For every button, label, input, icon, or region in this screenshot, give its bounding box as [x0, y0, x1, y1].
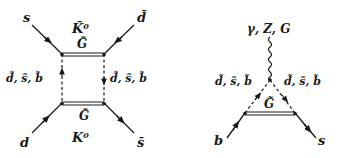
- label-squarks-left: d̃, s̃, b̃: [215, 74, 252, 88]
- label-s: s: [318, 133, 326, 148]
- label-boson: γ, Z, G: [247, 22, 290, 36]
- arrow-icon: [255, 95, 259, 100]
- label-squarks-right: d̃, s̃, b̃: [284, 74, 321, 88]
- boson-wavy-line: [269, 37, 272, 80]
- arrow-icon: [304, 124, 309, 130]
- vertex: [102, 53, 106, 57]
- label-kbar0: K̄⁰: [71, 20, 89, 36]
- box-diagram: s d̄ K̄⁰ G̃ d̃, s̃, b̃ d̃, s̃, b̃ G̃ K⁰ …: [6, 9, 147, 150]
- arrow-icon: [44, 37, 49, 41]
- gluino-line-top: [62, 53, 104, 56]
- label-gluino-top: G̃: [77, 36, 87, 51]
- penguin-diagram: γ, Z, G d̃, s̃, b̃ d̃, s̃, b̃ G̃ b s: [214, 22, 326, 148]
- arrow-icon: [233, 124, 237, 130]
- label-squarks-right: d̃, s̃, b̃: [110, 71, 147, 85]
- label-squarks-left: d̃, s̃, b̃: [6, 71, 43, 85]
- label-s-top-left: s: [23, 10, 31, 25]
- arrow-icon: [42, 118, 47, 123]
- gluino-line: [245, 112, 295, 115]
- label-b: b: [214, 133, 223, 148]
- vertex: [60, 53, 64, 57]
- label-k0: K⁰: [71, 130, 89, 145]
- label-sbar-bottom-right: s̄: [137, 135, 145, 150]
- label-gluino: G̃: [264, 96, 274, 111]
- gluino-line-bottom: [62, 102, 104, 105]
- vertex: [60, 102, 64, 106]
- feynman-diagrams: s d̄ K̄⁰ G̃ d̃, s̃, b̃ d̃, s̃, b̃ G̃ K⁰ …: [0, 0, 342, 158]
- vertex: [102, 102, 106, 106]
- label-d-bottom-left: d: [20, 135, 29, 150]
- arrow-icon: [117, 37, 122, 41]
- label-gluino-bottom: G̃: [79, 108, 89, 123]
- label-dbar-top-right: d̄: [137, 9, 147, 25]
- arrow-icon: [117, 116, 122, 121]
